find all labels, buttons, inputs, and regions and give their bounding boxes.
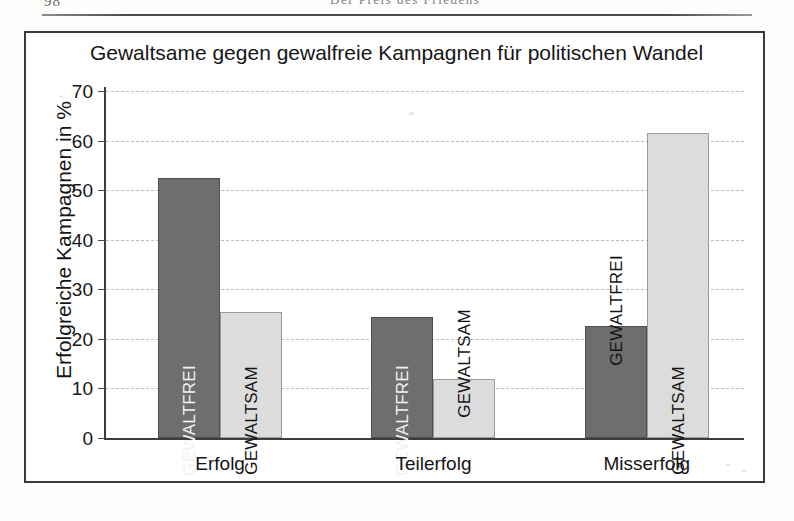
y-tick-mark xyxy=(98,240,105,241)
y-tick-label: 10 xyxy=(72,379,93,398)
bar-erfolg-gewaltfrei: GEWALTFREI xyxy=(158,178,220,438)
bar-teilerfolg-gewaltsam: GEWALTSAM xyxy=(433,379,495,438)
bar-series-label: GEWALTSAM xyxy=(243,366,260,475)
y-tick-label: 40 xyxy=(72,230,93,249)
y-tick-mark xyxy=(98,438,105,439)
y-tick-mark xyxy=(98,91,105,92)
category-label-erfolg: Erfolg xyxy=(195,453,245,475)
category-label-teilerfolg: Teilerfolg xyxy=(395,453,471,475)
scan-speck xyxy=(726,463,730,466)
y-tick-mark xyxy=(98,190,105,191)
page-header: 98 Der Preis des Friedens xyxy=(0,0,794,22)
bar-series-label: GEWALTSAM xyxy=(456,309,473,418)
y-tick-label: 20 xyxy=(72,329,93,348)
page-number: 98 xyxy=(44,0,61,10)
y-tick-label: 60 xyxy=(72,131,93,150)
y-tick-label: 50 xyxy=(72,181,93,200)
x-axis-line xyxy=(104,438,744,440)
y-tick-mark xyxy=(98,339,105,340)
y-tick-label: 0 xyxy=(82,429,93,448)
bar-erfolg-gewaltsam: GEWALTSAM xyxy=(220,312,282,438)
scan-speck xyxy=(60,95,63,98)
scan-speck xyxy=(742,469,746,473)
running-head: Der Preis des Friedens xyxy=(330,0,480,8)
figure-container: Gewaltsame gegen gewalfreie Kampagnen fü… xyxy=(24,31,765,483)
bar-misserfolg-gewaltsam: GEWALTSAM xyxy=(647,133,709,438)
bar-series-label: GEWALTFREI xyxy=(607,256,624,367)
scan-speck xyxy=(409,112,414,115)
y-tick-label: 70 xyxy=(72,82,93,101)
y-tick-mark xyxy=(98,289,105,290)
plot-area: 706050403020100 GEWALTFREIGEWALTSAMGEWAL… xyxy=(104,87,744,440)
gridline xyxy=(106,91,744,93)
scanned-page-background: 98 Der Preis des Friedens Gewaltsame geg… xyxy=(0,0,794,521)
y-tick-mark xyxy=(98,388,105,389)
category-label-misserfolg: Misserfolg xyxy=(604,453,691,475)
y-tick-mark xyxy=(98,141,105,142)
chart-title: Gewaltsame gegen gewalfreie Kampagnen fü… xyxy=(26,41,767,65)
bar-misserfolg-gewaltfrei: GEWALTFREI xyxy=(585,326,647,438)
header-rule xyxy=(42,14,752,16)
y-tick-label: 30 xyxy=(72,280,93,299)
bar-teilerfolg-gewaltfrei: GEWALTFREI xyxy=(371,317,433,438)
